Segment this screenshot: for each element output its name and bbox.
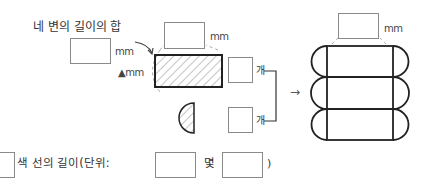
bottom-answer-suffix: ) — [267, 158, 271, 169]
bottom-answer-box[interactable] — [0, 152, 15, 178]
bottom-answer-prefix: 색 선의 길이(단위: — [17, 158, 110, 170]
half-circle-count-answer-box[interactable] — [228, 107, 253, 133]
bottom-unit1-answer-box[interactable] — [155, 152, 196, 178]
count-unit-rect: 개 — [256, 66, 265, 76]
unit-mm-right: mm — [384, 24, 402, 34]
result-length-answer-box[interactable] — [338, 13, 379, 39]
perimeter-label: 네 변의 길이의 합 — [33, 21, 121, 33]
count-unit-half-circle: 개 — [256, 116, 265, 126]
hatched-half-circle — [179, 103, 194, 133]
hatched-rectangle — [155, 55, 222, 87]
top-length-answer-box[interactable] — [164, 22, 205, 49]
composite-shape — [311, 46, 409, 140]
right-arrow-icon: → — [290, 86, 300, 98]
bottom-unit2-answer-box[interactable] — [222, 152, 263, 178]
bottom-unit2-label: 몇 — [204, 158, 215, 170]
unit-mm-top: mm — [210, 32, 228, 42]
rect-count-answer-box[interactable] — [228, 57, 253, 83]
triangle-unit-label: ▲mm — [118, 68, 144, 78]
bracket — [264, 71, 276, 121]
left-length-answer-box[interactable] — [70, 38, 111, 64]
unit-mm-left: mm — [115, 47, 133, 57]
